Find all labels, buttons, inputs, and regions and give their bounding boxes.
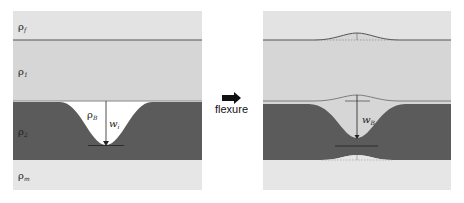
layer-2 — [13, 102, 202, 160]
fluid-layer — [13, 11, 202, 40]
layer-1 — [263, 33, 451, 101]
left-panel: ρf ρ1 ρ2 ρm ρB wi — [13, 11, 202, 190]
layer-1 — [13, 40, 202, 101]
mantle-layer — [13, 160, 202, 190]
mantle-layer — [263, 155, 451, 190]
flexure-diagram: ρf ρ1 ρ2 ρm ρB wi flexure wB — [0, 0, 464, 203]
label-w-i: wi — [109, 118, 120, 130]
label-rho-b: ρB — [87, 109, 98, 121]
transition: flexure — [215, 92, 248, 115]
right-panel: wB — [263, 11, 451, 190]
flexure-label: flexure — [215, 103, 248, 115]
